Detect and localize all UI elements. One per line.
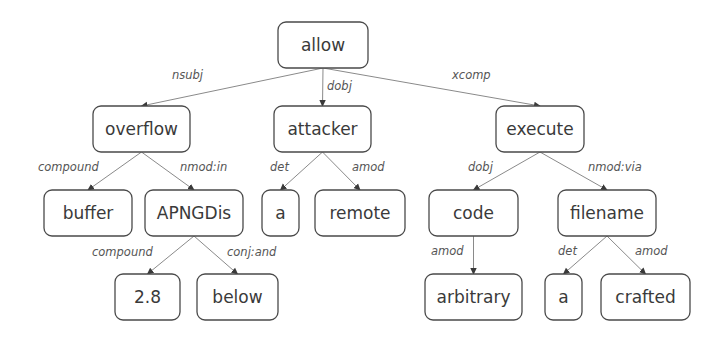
edge-label: compound [92, 245, 153, 259]
node-label: code [453, 203, 494, 223]
node-crafted: crafted [601, 274, 690, 320]
node-label: overflow [105, 119, 178, 139]
edge-label: conj:and [227, 245, 277, 259]
node-a2: a [545, 274, 582, 320]
node-attacker: attacker [274, 106, 371, 152]
node-label: APNGDis [157, 203, 232, 223]
edge-arrow-APNGDis-n28 [148, 236, 195, 274]
edge-label: compound [38, 160, 99, 174]
node-label: 2.8 [134, 287, 161, 307]
node-label: allow [301, 35, 345, 55]
edge-arrow-allow-execute [323, 68, 540, 106]
edge-label: dobj [327, 79, 353, 93]
node-label: remote [329, 203, 390, 223]
node-code: code [429, 190, 518, 236]
node-label: a [275, 203, 285, 223]
edge-label: nsubj [172, 68, 204, 82]
node-buffer: buffer [44, 190, 132, 236]
node-n28: 2.8 [115, 274, 180, 320]
edge-label: det [558, 244, 577, 258]
node-arbitrary: arbitrary [425, 274, 522, 320]
node-label: arbitrary [436, 287, 510, 307]
edge-label: nmod:in [180, 160, 227, 174]
node-label: below [212, 287, 262, 307]
edge-label: amod [635, 244, 668, 258]
node-label: execute [506, 119, 573, 139]
edge-label: xcomp [451, 68, 491, 82]
node-APNGDis: APNGDis [145, 190, 243, 236]
dependency-tree-diagram: allowoverflowattackerexecutebufferAPNGDi… [0, 0, 727, 343]
edge-label: dobj [468, 160, 494, 174]
node-label: attacker [287, 119, 357, 139]
edge-arrow-allow-overflow [142, 68, 324, 106]
node-allow: allow [278, 22, 368, 68]
edge-label: det [270, 160, 289, 174]
node-execute: execute [496, 106, 584, 152]
node-label: crafted [615, 287, 675, 307]
edge-arrow-allow-attacker [323, 68, 324, 106]
node-overflow: overflow [93, 106, 190, 152]
node-label: a [558, 287, 568, 307]
node-label: buffer [63, 203, 114, 223]
edge-label: amod [431, 244, 464, 258]
node-filename: filename [558, 190, 656, 236]
edge-label: nmod:via [588, 160, 642, 174]
edge-label: amod [352, 160, 385, 174]
node-a1: a [262, 190, 299, 236]
node-below: below [197, 274, 278, 320]
node-label: filename [570, 203, 644, 223]
node-remote: remote [315, 190, 405, 236]
